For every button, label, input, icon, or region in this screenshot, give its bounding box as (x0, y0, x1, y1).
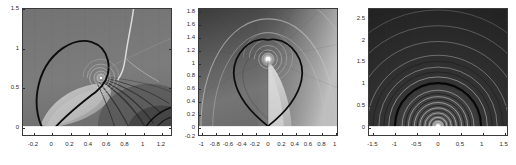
tick-x (242, 133, 243, 135)
tick-y (369, 128, 371, 129)
x-tick-label: 0.6 (304, 141, 312, 147)
panel-right: 2.5 2 1.5 1 0.5 0 -1.5 -1 -0.5 0 0.5 1 1… (346, 0, 516, 165)
tick-y (199, 102, 201, 103)
tick-y (369, 41, 371, 42)
y-tick-label: 0.5 (346, 102, 365, 108)
tick-y (199, 12, 201, 13)
tick-x (296, 133, 297, 135)
y-tick-label: 1.6 (176, 21, 195, 27)
tick-x (216, 133, 217, 135)
y-tick-label: 0.8 (176, 72, 195, 78)
tick-x (309, 133, 310, 135)
tick-y (169, 88, 171, 89)
x-tick-label: 1.2 (157, 141, 165, 147)
tick-x (125, 133, 126, 135)
y-tick-label: 0 (176, 124, 195, 130)
tick-y (199, 51, 201, 52)
y-tick-label: 1.5 (346, 58, 365, 64)
tick-y (169, 49, 171, 50)
x-tick-label: -0.4 (236, 141, 246, 147)
tick-x (202, 133, 203, 135)
tick-x (417, 133, 418, 135)
panel-left-axes (22, 8, 172, 136)
tick-y (199, 115, 201, 116)
figure-container: 1.5 1 0.5 0 -0.2 0 0.2 0.4 0.6 0.8 1 1.2 (0, 0, 516, 165)
y-tick-label: 0.4 (176, 98, 195, 104)
y-tick-label: 1.4 (176, 34, 195, 40)
x-tick-label: 0.5 (456, 141, 464, 147)
x-tick-label: 0.8 (317, 141, 325, 147)
tick-y (505, 41, 507, 42)
panel-right-field (369, 9, 507, 135)
tick-y (23, 9, 25, 10)
x-tick-label: 0.4 (290, 141, 298, 147)
tick-x (395, 133, 396, 135)
x-tick-label: 0.2 (65, 141, 73, 147)
tick-y (199, 128, 201, 129)
tick-y (169, 128, 171, 129)
y-tick-label: 1.8 (176, 8, 195, 14)
x-tick-label: -0.6 (223, 141, 233, 147)
tick-x (52, 133, 53, 135)
tick-y (199, 64, 201, 65)
tick-y (369, 84, 371, 85)
y-tick-label: 0 (346, 124, 365, 130)
tick-y (199, 76, 201, 77)
x-tick-label: -0.8 (209, 141, 219, 147)
x-tick-label: 0.8 (120, 141, 128, 147)
tick-y (199, 25, 201, 26)
x-tick-label: -1 (199, 141, 204, 147)
tick-y (505, 62, 507, 63)
x-tick-label: 0 (50, 141, 53, 147)
tick-x (89, 133, 90, 135)
y-tick-label: 1.2 (176, 47, 195, 53)
tick-y (23, 49, 25, 50)
tick-y (369, 62, 371, 63)
tick-x (269, 133, 270, 135)
panel-middle-axes (198, 8, 338, 136)
tick-x (505, 133, 506, 135)
y-tick-label: 2.5 (346, 15, 365, 21)
tick-y (199, 89, 201, 90)
tick-x (483, 133, 484, 135)
tick-y (369, 19, 371, 20)
tick-x (256, 133, 257, 135)
y-tick-label: 1 (176, 60, 195, 66)
tick-x (229, 133, 230, 135)
tick-y (505, 19, 507, 20)
x-tick-label: 1 (333, 141, 336, 147)
y-tick-label: 0.2 (176, 111, 195, 117)
panel-left-field (23, 9, 171, 135)
panel-left: 1.5 1 0.5 0 -0.2 0 0.2 0.4 0.6 0.8 1 1.2 (0, 0, 176, 165)
tick-x (34, 133, 35, 135)
x-tick-label: 0 (266, 141, 269, 147)
tick-x (107, 133, 108, 135)
x-tick-label: -0.5 (411, 141, 421, 147)
x-tick-label: -1.5 (367, 141, 377, 147)
x-tick-label: -0.2 (249, 141, 259, 147)
x-tick-label: 0.6 (102, 141, 110, 147)
y-tick-label: 0 (0, 124, 19, 130)
panel-middle-field (199, 9, 337, 135)
x-tick-label: 0.2 (277, 141, 285, 147)
y-tick-label: 1.5 (0, 5, 19, 11)
y-tick-label: 1 (346, 80, 365, 86)
tick-y (23, 88, 25, 89)
x-tick-label: 0 (436, 141, 439, 147)
x-tick-label: 1 (141, 141, 144, 147)
tick-y (199, 38, 201, 39)
tick-y (505, 84, 507, 85)
y-tick-label: 0.6 (176, 85, 195, 91)
tick-y (505, 106, 507, 107)
tick-x (336, 133, 337, 135)
x-tick-label: 1.5 (499, 141, 507, 147)
tick-x (322, 133, 323, 135)
tick-y (369, 106, 371, 107)
tick-x (373, 133, 374, 135)
tick-x (439, 133, 440, 135)
x-tick-label: -1 (392, 141, 397, 147)
x-tick-label: -0.2 (28, 141, 38, 147)
tick-x (71, 133, 72, 135)
y-tick-label: 1 (0, 45, 19, 51)
tick-x (162, 133, 163, 135)
